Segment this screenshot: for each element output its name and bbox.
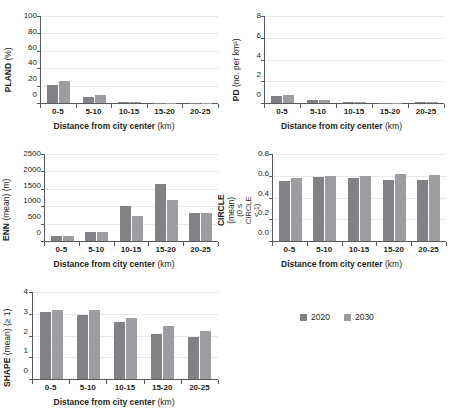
- legend-item-2020[interactable]: 2020: [300, 312, 330, 322]
- bar-2020[interactable]: [313, 177, 324, 241]
- y-tick-label: 80: [28, 28, 37, 36]
- x-axis-label-enn: Distance from city center (km): [0, 259, 228, 269]
- bar-2030[interactable]: [429, 175, 440, 241]
- bar-group: [183, 16, 218, 103]
- bar-2020[interactable]: [271, 96, 282, 103]
- x-tick-label: 15-20: [147, 107, 183, 116]
- x-tick-label: 20-25: [411, 245, 446, 254]
- bar-2030[interactable]: [97, 232, 108, 241]
- bar-2030[interactable]: [126, 318, 137, 379]
- bar-2030[interactable]: [95, 95, 106, 103]
- bars-pd: [265, 16, 444, 103]
- bars-shape: [33, 292, 218, 379]
- bar-group: [408, 16, 444, 103]
- y-axis-ticks-circle: 0.80.60.40.20.0: [250, 154, 269, 241]
- bar-2020[interactable]: [417, 180, 428, 241]
- y-axis-label-enn: ENN (mean) (m): [0, 144, 14, 276]
- x-tick-label: 15-20: [376, 245, 411, 254]
- bar-2030[interactable]: [291, 178, 302, 241]
- bar-group: [33, 292, 70, 379]
- bar-2030[interactable]: [427, 102, 438, 103]
- bar-2020[interactable]: [51, 236, 62, 241]
- bar-2020[interactable]: [47, 85, 58, 103]
- bar-2020[interactable]: [383, 180, 394, 241]
- bar-2030[interactable]: [325, 176, 336, 241]
- y-axis-label-shape-metric: SHAPE: [2, 358, 12, 387]
- y-tick-label: 0.6: [258, 170, 269, 178]
- bar-2020[interactable]: [188, 337, 199, 379]
- y-tick-label: 60: [28, 44, 37, 52]
- bar-group: [342, 154, 377, 241]
- bar-2030[interactable]: [130, 102, 141, 103]
- bar-group: [372, 16, 408, 103]
- x-tick-label: 5-10: [300, 107, 336, 116]
- x-tick-label: 15-20: [144, 383, 181, 392]
- x-axis-label-pd: Distance from city center (km): [228, 121, 455, 131]
- y-axis-label-pd-metric: PD: [231, 90, 241, 102]
- bar-2020[interactable]: [279, 181, 290, 241]
- plot-area-shape: [32, 292, 218, 380]
- x-tickmark: [446, 242, 447, 246]
- x-tick-label: 5-10: [69, 383, 106, 392]
- bar-2030[interactable]: [63, 236, 74, 241]
- x-tick-label: 0-5: [32, 383, 69, 392]
- bar-2020[interactable]: [151, 334, 162, 379]
- y-tick-label: 1500: [23, 182, 41, 190]
- bar-2030[interactable]: [360, 176, 371, 241]
- bar-2020[interactable]: [120, 206, 131, 241]
- bar-2030[interactable]: [201, 213, 212, 241]
- y-axis-label-enn-unit: (mean) (m): [1, 179, 11, 221]
- x-axis-label-pland: Distance from city center (km): [0, 121, 228, 131]
- bar-2030[interactable]: [89, 310, 100, 379]
- x-tick-label: 10-15: [336, 107, 372, 116]
- x-axis-ticks-pland: 0-55-1010-1515-2020-25: [40, 107, 218, 116]
- x-axis-ticks-circle: 0-55-1010-1515-2020-25: [272, 245, 446, 254]
- y-tick-label: 3: [24, 308, 28, 316]
- bar-2030[interactable]: [59, 81, 70, 103]
- x-tick-label: 20-25: [181, 383, 218, 392]
- x-tick-label: 15-20: [372, 107, 408, 116]
- bar-2030[interactable]: [355, 102, 366, 103]
- bar-2030[interactable]: [283, 95, 294, 103]
- bar-2020[interactable]: [83, 97, 94, 103]
- bars-enn: [45, 154, 218, 241]
- y-axis-label-enn-metric: ENN: [1, 223, 11, 241]
- bar-2030[interactable]: [52, 310, 63, 379]
- bar-2020[interactable]: [114, 322, 125, 379]
- bar-2020[interactable]: [415, 102, 426, 103]
- bar-2020[interactable]: [77, 315, 88, 379]
- x-axis-label-circle: Distance from city center (km): [228, 259, 455, 269]
- plot-area-pland: [40, 16, 218, 104]
- bar-2020[interactable]: [348, 178, 359, 241]
- bar-2030[interactable]: [132, 216, 143, 241]
- x-axis-ticks-shape: 0-55-1010-1515-2020-25: [32, 383, 218, 392]
- y-axis-label-pland-metric: PLAND: [2, 63, 12, 92]
- bar-2020[interactable]: [40, 312, 51, 379]
- bar-2030[interactable]: [163, 326, 174, 379]
- y-axis-label-pd-unit: (no. per km²): [231, 39, 241, 88]
- bar-2020[interactable]: [155, 184, 166, 241]
- bar-2020[interactable]: [189, 213, 200, 241]
- legend-swatch-2020-icon: [300, 314, 307, 321]
- bar-2020[interactable]: [118, 102, 129, 103]
- y-tick-label: 0.8: [258, 150, 269, 158]
- bar-2020[interactable]: [307, 100, 318, 103]
- bar-group: [273, 154, 308, 241]
- bar-group: [377, 154, 412, 241]
- x-tickmark: [444, 104, 445, 108]
- legend-item-2030[interactable]: 2030: [344, 312, 374, 322]
- bar-2030[interactable]: [167, 200, 178, 241]
- bar-group: [112, 16, 147, 103]
- bar-2030[interactable]: [319, 100, 330, 103]
- y-axis-label-shape: SHAPE (mean) (≥ 1): [0, 282, 16, 414]
- x-tickmark: [218, 104, 219, 108]
- bar-2020[interactable]: [343, 102, 354, 103]
- x-tickmark: [218, 380, 219, 384]
- bar-2030[interactable]: [200, 331, 211, 379]
- x-axis-label-pland-unit: (km): [157, 121, 174, 131]
- x-axis-label-pd-text: Distance from city center: [281, 121, 383, 131]
- y-axis-ticks-enn: 25002000150010005000: [14, 154, 41, 241]
- bar-2020[interactable]: [85, 232, 96, 241]
- bar-2030[interactable]: [395, 174, 406, 241]
- bar-group: [41, 16, 76, 103]
